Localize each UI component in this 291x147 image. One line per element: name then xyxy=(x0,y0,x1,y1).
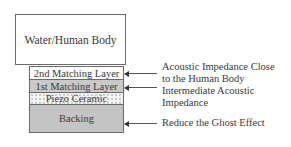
annotation-first-matching: Intermediate Acoustic Impedance xyxy=(162,85,254,109)
piezo-ceramic-layer: Piezo Ceramic xyxy=(30,93,123,105)
backing-layer: Backing xyxy=(30,105,123,132)
transducer-layer-stack: 2nd Matching Layer 1st Matching Layer Pi… xyxy=(29,66,124,133)
annotation-line: Impedance xyxy=(162,97,254,109)
water-human-body-box: Water/Human Body xyxy=(15,14,126,65)
arrow-left-icon xyxy=(125,87,157,88)
first-matching-layer-label: 1st Matching Layer xyxy=(35,81,117,92)
water-human-body-label: Water/Human Body xyxy=(24,34,116,46)
second-matching-layer: 2nd Matching Layer xyxy=(30,67,123,80)
annotation-backing: Reduce the Ghost Effect xyxy=(162,117,265,129)
arrow-left-icon xyxy=(125,123,157,124)
backing-label: Backing xyxy=(59,113,94,124)
arrow-left-icon xyxy=(125,73,157,74)
first-matching-layer: 1st Matching Layer xyxy=(30,80,123,93)
annotation-line: Reduce the Ghost Effect xyxy=(162,117,265,129)
annotation-second-matching: Acoustic Impedance Close to the Human Bo… xyxy=(162,61,275,85)
second-matching-layer-label: 2nd Matching Layer xyxy=(34,68,120,79)
annotation-line: to the Human Body xyxy=(162,73,275,85)
piezo-ceramic-label: Piezo Ceramic xyxy=(46,93,108,104)
annotation-line: Intermediate Acoustic xyxy=(162,85,254,97)
annotation-line: Acoustic Impedance Close xyxy=(162,61,275,73)
